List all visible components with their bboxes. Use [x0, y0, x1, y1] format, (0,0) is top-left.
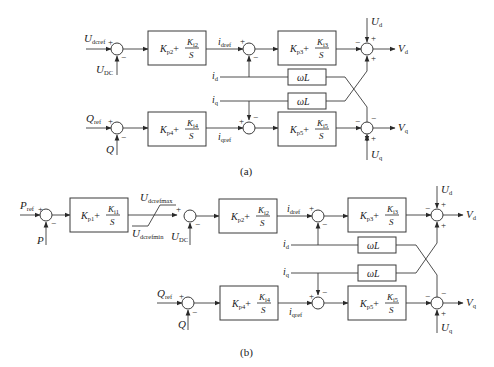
- sign-minus: −: [322, 287, 327, 297]
- omega-l-label: ωL: [367, 240, 380, 251]
- sign-minus: −: [425, 203, 430, 213]
- label-i-q: iq: [283, 266, 290, 278]
- sign-minus: −: [355, 116, 360, 126]
- sign-minus: −: [322, 219, 327, 229]
- label-i-qref: iqref: [218, 131, 232, 143]
- pi1-den: S: [110, 217, 115, 227]
- sign-minus: −: [192, 307, 197, 317]
- label-u-d: Ud: [371, 15, 383, 28]
- sign-plus: +: [441, 199, 446, 209]
- label-u-dcref: Udcref: [84, 32, 106, 45]
- pi4-den: S: [189, 131, 194, 141]
- label-q: Q: [178, 318, 186, 330]
- label-i-q: iq: [212, 94, 219, 106]
- sign-minus: −: [253, 52, 258, 62]
- label-i-dref: idref: [287, 203, 301, 215]
- figure-b: Pref + − P Kp1+ Ki1 S Udcrefmax Udcrefmi…: [19, 183, 477, 359]
- caption-a: (a): [240, 165, 253, 178]
- label-u-d: Ud: [441, 183, 453, 196]
- label-u-dc: UDC: [171, 230, 188, 243]
- label-v-d: Vd: [466, 208, 477, 221]
- label-p-ref: Pref: [19, 199, 35, 212]
- sign-plus: +: [441, 220, 446, 230]
- sign-minus: −: [51, 218, 56, 228]
- sign-plus: +: [371, 33, 376, 43]
- caption-b: (b): [240, 346, 253, 359]
- sign-minus: −: [425, 291, 430, 301]
- sign-minus: −: [355, 37, 360, 47]
- pi3-den: S: [319, 50, 324, 60]
- label-u-dc: UDC: [96, 63, 113, 76]
- sign-plus: +: [239, 116, 244, 126]
- sign-minus: −: [253, 112, 258, 122]
- label-u-q: Uq: [371, 148, 383, 161]
- sign-plus: +: [441, 308, 446, 318]
- label-i-qref: iqref: [289, 306, 303, 318]
- label-q-ref: Qref: [86, 112, 102, 125]
- label-q: Q: [106, 143, 114, 155]
- label-u-dcrefmin: Udcrefmin: [132, 227, 164, 240]
- label-u-dcrefmax: Udcrefmax: [140, 191, 173, 204]
- sign-plus: +: [371, 133, 376, 143]
- pi3-den: S: [389, 217, 394, 227]
- summing-junction-qi: [312, 297, 324, 309]
- label-v-d: Vd: [398, 42, 409, 55]
- pi5-den: S: [319, 131, 324, 141]
- limiter-curve: [132, 205, 176, 226]
- control-block-diagram: Udcref + − UDC Kp2+ Ki2 S idref + − Kp3+…: [0, 0, 494, 367]
- label-i-dref: idref: [218, 36, 232, 48]
- summing-junction-qi: [243, 122, 255, 134]
- label-p: P: [36, 234, 44, 246]
- sign-minus: −: [121, 132, 126, 142]
- sign-minus: −: [371, 113, 376, 123]
- omega-l-label: ωL: [367, 268, 380, 279]
- label-v-q: Vq: [466, 296, 477, 309]
- label-i-d: id: [212, 70, 219, 82]
- figure-a: Udcref + − UDC Kp2+ Ki2 S idref + − Kp3+…: [84, 15, 409, 178]
- sign-plus: +: [176, 204, 181, 214]
- label-v-q: Vq: [398, 121, 409, 134]
- pi2-den: S: [189, 50, 194, 60]
- label-u-q: Uq: [441, 321, 453, 334]
- label-q-ref: Qref: [157, 287, 173, 300]
- sign-minus: −: [195, 219, 200, 229]
- pi4-den: S: [261, 305, 266, 315]
- label-i-d: id: [283, 238, 290, 250]
- sign-minus: −: [441, 288, 446, 298]
- omega-l-label: ωL: [297, 72, 310, 83]
- pi2-den: S: [260, 218, 265, 228]
- omega-l-label: ωL: [297, 96, 310, 107]
- sign-plus: +: [371, 53, 376, 63]
- pi5-den: S: [389, 305, 394, 315]
- sign-minus: −: [121, 52, 126, 62]
